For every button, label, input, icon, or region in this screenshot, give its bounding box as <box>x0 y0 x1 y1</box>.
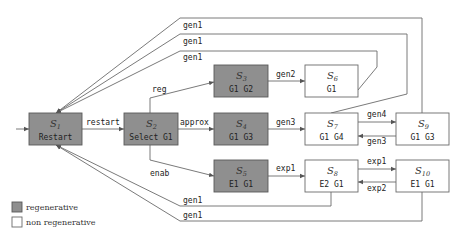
legend-label-regenerative: regenerative <box>26 203 78 212</box>
edge-label-gen1-s6: gen1 <box>183 53 202 62</box>
edge-label-gen2: gen2 <box>276 70 295 79</box>
legend-label-non-regenerative: non regenerative <box>26 218 96 227</box>
state-s2-label: Select G1 <box>129 133 173 142</box>
edge-label-gen1-s7: gen1 <box>183 37 202 46</box>
state-s8-label: E2 G1 <box>319 180 343 189</box>
state-s6: S6 G1 <box>305 65 358 97</box>
state-s4-label: G1 G3 <box>229 133 253 142</box>
edge-label-exp1-b: exp1 <box>367 157 386 166</box>
state-s10: S10 E1 G1 <box>396 160 449 192</box>
edge-label-gen3-back: gen3 <box>367 137 386 146</box>
state-s9-label: G1 G3 <box>410 133 434 142</box>
state-s5-label: E1 G1 <box>229 180 253 189</box>
edge-label-enab: enab <box>150 169 169 178</box>
state-s4: S4 G1 G3 <box>214 113 268 145</box>
edge-label-gen3: gen3 <box>276 118 295 127</box>
state-s9: S9 G1 G3 <box>396 113 449 145</box>
legend-swatch-non-regenerative <box>12 217 22 227</box>
edge-label-gen1-s10: gen1 <box>183 211 202 220</box>
state-s2: S2 Select G1 <box>124 113 178 145</box>
legend-swatch-regenerative <box>12 202 22 212</box>
state-s7-label: G1 G4 <box>319 133 343 142</box>
edge-label-approx: approx <box>180 118 209 127</box>
edge-label-gen1-s9: gen1 <box>183 21 202 30</box>
edge-label-gen1-s8: gen1 <box>183 196 202 205</box>
edge-label-restart: restart <box>86 118 120 127</box>
state-s3-label: G1 G2 <box>229 85 253 94</box>
state-s8: S8 E2 G1 <box>305 160 358 192</box>
state-diagram: restart reg approx enab gen2 gen3 exp1 g… <box>0 0 463 240</box>
state-s7: S7 G1 G4 <box>305 113 358 145</box>
edge-label-exp2: exp2 <box>367 184 386 193</box>
edge-label-gen4: gen4 <box>367 110 386 119</box>
state-s10-label: E1 G1 <box>410 180 434 189</box>
state-s3: S3 G1 G2 <box>214 65 268 97</box>
state-s1: S1 Restart <box>29 113 82 145</box>
state-s6-label: G1 <box>327 85 337 94</box>
state-s1-label: Restart <box>39 133 73 142</box>
legend: regenerative non regenerative <box>12 202 96 227</box>
edge-label-exp1-a: exp1 <box>276 164 295 173</box>
edge-label-reg: reg <box>152 85 167 94</box>
state-s5: S5 E1 G1 <box>214 160 268 192</box>
